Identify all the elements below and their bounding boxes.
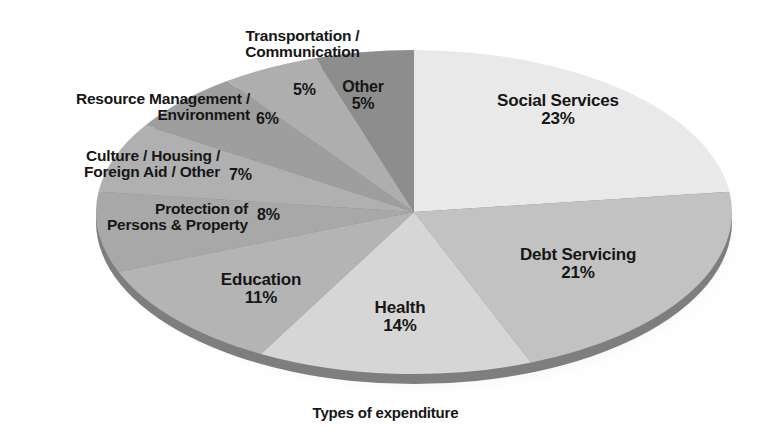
slice-percent-resource-management: 6% [256,110,279,128]
slice-name-transportation-line2: Communication [205,44,400,60]
slice-name-health: Health [340,299,460,317]
slice-label-other: Other 5% [313,79,413,113]
slice-name-resource-line1: Resource Management / [6,91,250,107]
slice-name-culture-line2: Foreign Aid / Other [8,164,220,180]
slice-name-protection-line1: Protection of [16,201,248,217]
slice-percent-social-services: 23% [458,110,658,128]
slice-name-protection-line2: Persons & Property [16,217,248,233]
slice-label-health: Health 14% [340,299,460,335]
slice-percent-other: 5% [313,96,413,113]
slice-name-transportation-line1: Transportation / [205,28,400,44]
slice-name-debt-servicing: Debt Servicing [478,246,678,264]
slice-name-education: Education [186,271,336,289]
pie-chart: Social Services 23% Debt Servicing 21% H… [0,0,771,437]
slice-name-other: Other [313,79,413,96]
slice-name-resource-line2: Environment [6,107,250,123]
slice-percent-debt-servicing: 21% [478,264,678,282]
slice-percent-protection: 8% [257,206,280,224]
slice-percent-education: 11% [186,289,336,307]
slice-label-social-services: Social Services 23% [458,92,658,128]
slice-percent-culture-housing: 7% [229,166,252,184]
slice-label-debt-servicing: Debt Servicing 21% [478,246,678,282]
slice-label-protection: Protection of Persons & Property [16,201,248,234]
slice-label-transportation: Transportation / Communication [205,28,400,61]
slice-name-social-services: Social Services [458,92,658,110]
slice-label-resource-management: Resource Management / Environment [6,91,250,124]
slice-label-culture-housing: Culture / Housing / Foreign Aid / Other [8,148,220,181]
slice-label-education: Education 11% [186,271,336,307]
slice-percent-health: 14% [340,317,460,335]
chart-caption: Types of expenditure [0,404,771,421]
pie-slice-social-services [414,50,729,212]
slice-name-culture-line1: Culture / Housing / [8,148,220,164]
